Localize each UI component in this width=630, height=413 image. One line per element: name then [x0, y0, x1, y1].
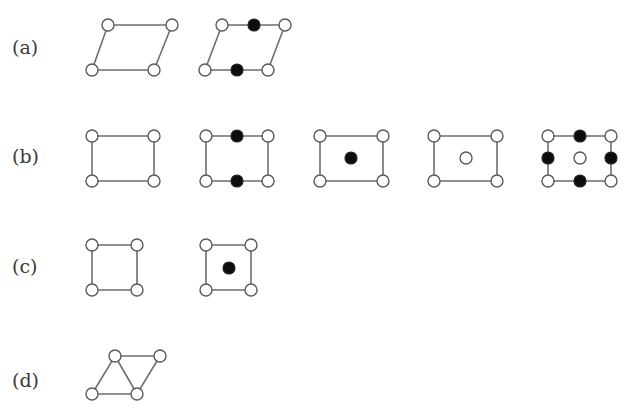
cell-outline: [92, 136, 154, 181]
open-site-icon: [86, 284, 98, 296]
lattice-cell-rectangular-body-centered-open: [428, 130, 503, 187]
open-site-icon: [216, 19, 228, 31]
open-site-icon: [542, 175, 554, 187]
lattice-cell-square-centered: [200, 239, 257, 296]
filled-site-icon: [223, 262, 235, 274]
open-site-icon: [131, 388, 143, 400]
open-site-icon: [262, 175, 274, 187]
cell-outline: [205, 25, 285, 70]
open-site-icon: [279, 19, 291, 31]
open-site-icon: [166, 19, 178, 31]
open-site-icon: [377, 175, 389, 187]
lattice-diagram: [0, 0, 630, 413]
open-site-icon: [148, 64, 160, 76]
open-site-icon: [314, 130, 326, 142]
open-site-icon: [148, 175, 160, 187]
open-site-icon: [199, 64, 211, 76]
open-site-icon: [262, 64, 274, 76]
open-site-icon: [428, 175, 440, 187]
lattice-cell-rectangular-body-centered-filled: [314, 130, 389, 187]
lattice-cell-oblique-primitive: [86, 19, 178, 76]
open-site-icon: [574, 152, 586, 164]
filled-site-icon: [248, 19, 260, 31]
open-site-icon: [200, 130, 212, 142]
filled-site-icon: [574, 175, 586, 187]
open-site-icon: [102, 19, 114, 31]
open-site-icon: [109, 350, 121, 362]
filled-site-icon: [574, 130, 586, 142]
open-site-icon: [154, 350, 166, 362]
open-site-icon: [148, 130, 160, 142]
open-site-icon: [86, 130, 98, 142]
filled-site-icon: [345, 152, 357, 164]
open-site-icon: [491, 130, 503, 142]
lattice-cell-square-primitive: [86, 239, 143, 296]
lattice-cell-rectangular-edge-centered: [200, 130, 274, 187]
cell-outline: [92, 25, 172, 70]
cell-outline: [92, 245, 137, 290]
open-site-icon: [262, 130, 274, 142]
lattice-cell-hexagonal-rhombus: [86, 350, 166, 400]
open-site-icon: [200, 175, 212, 187]
lattice-cell-rectangular-primitive: [86, 130, 160, 187]
open-site-icon: [377, 130, 389, 142]
open-site-icon: [200, 239, 212, 251]
open-site-icon: [245, 284, 257, 296]
open-site-icon: [200, 284, 212, 296]
lattice-cell-oblique-centered-edges: [199, 19, 291, 76]
filled-site-icon: [542, 152, 554, 164]
open-site-icon: [86, 175, 98, 187]
open-site-icon: [542, 130, 554, 142]
open-site-icon: [428, 130, 440, 142]
open-site-icon: [314, 175, 326, 187]
open-site-icon: [131, 239, 143, 251]
open-site-icon: [460, 152, 472, 164]
filled-site-icon: [231, 130, 243, 142]
cell-outline: [206, 136, 268, 181]
open-site-icon: [86, 239, 98, 251]
open-site-icon: [86, 64, 98, 76]
filled-site-icon: [231, 64, 243, 76]
open-site-icon: [605, 130, 617, 142]
open-site-icon: [491, 175, 503, 187]
open-site-icon: [605, 175, 617, 187]
filled-site-icon: [605, 152, 617, 164]
filled-site-icon: [231, 175, 243, 187]
open-site-icon: [86, 388, 98, 400]
lattice-cell-rectangular-face-and-body: [542, 130, 617, 187]
open-site-icon: [131, 284, 143, 296]
open-site-icon: [245, 239, 257, 251]
